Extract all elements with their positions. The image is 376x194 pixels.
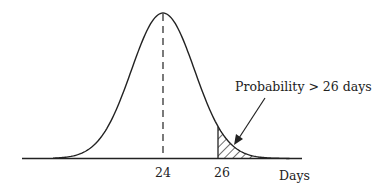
x-axis-label: Days: [279, 168, 310, 183]
arrowhead-icon: [234, 134, 243, 145]
annotation-label: Probability > 26 days: [235, 79, 372, 94]
tick-label-24: 24: [155, 165, 171, 180]
tick-label-26: 26: [214, 165, 230, 180]
annotation-arrow: [239, 98, 265, 138]
normal-distribution-diagram: Probability > 26 days 24 26 Days: [0, 0, 376, 194]
